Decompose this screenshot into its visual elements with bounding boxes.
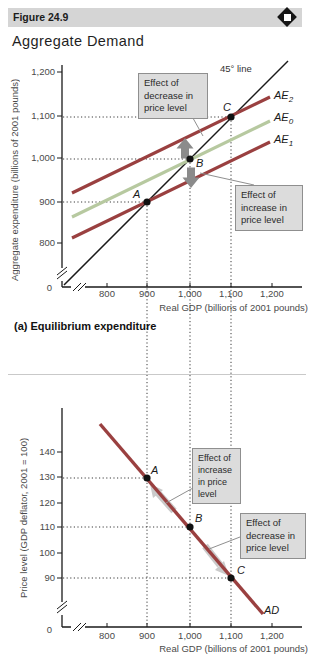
ya-tick-1000: 1,000 xyxy=(25,153,55,163)
xa-tick-1200: 1,200 xyxy=(255,289,289,299)
yb-tick-0: 0 xyxy=(40,625,52,635)
figure-title: Aggregate Demand xyxy=(12,33,144,49)
ae1-label-base: AE xyxy=(274,133,289,145)
leader-decrease-b xyxy=(209,537,240,549)
point-b-dot-a xyxy=(186,155,193,162)
callout-text-line: Effect of xyxy=(246,517,301,530)
callout-text-line: in price xyxy=(198,476,236,488)
xb-tick-800: 800 xyxy=(90,631,124,641)
point-c-dot-b xyxy=(227,574,234,581)
point-c-label-a: C xyxy=(223,101,231,113)
callout-text-line: Effect of xyxy=(198,452,236,464)
callout-text-line: price level xyxy=(241,214,298,227)
point-a-dot-b xyxy=(143,474,150,481)
yb-axis-title: Price level (GDP deflator, 2001 = 100) xyxy=(17,405,31,631)
ae2-label-base: AE xyxy=(274,89,289,101)
figure-number: Figure 24.9 xyxy=(8,8,302,27)
xb-tick-1000: 1,000 xyxy=(173,631,207,641)
panel-divider xyxy=(8,374,306,375)
ad-label: AD xyxy=(264,604,279,616)
ya-tick-800: 800 xyxy=(25,238,55,248)
ae0-label: AE0 xyxy=(274,111,293,126)
xa-tick-900: 900 xyxy=(130,289,164,299)
ae0-label-sub: 0 xyxy=(289,117,293,126)
ae2-label: AE2 xyxy=(274,89,293,104)
ya-tick-1200: 1,200 xyxy=(25,67,55,77)
callout-text-line: decrease in xyxy=(144,90,203,103)
leader-increase-a xyxy=(200,173,254,185)
point-a-dot-a xyxy=(143,198,150,205)
callout-text-line: level xyxy=(198,488,236,500)
diamond-icon-inner xyxy=(284,14,291,21)
callout-decrease-price-a: Effect of decrease in price level xyxy=(138,73,208,119)
callout-text-line: increase xyxy=(198,464,236,476)
ya-tick-900: 900 xyxy=(25,197,55,207)
panel-a-caption: (a) Equilibrium expenditure xyxy=(14,320,156,332)
figure-page: Figure 24.9 Aggregate Demand 1,200 1,100… xyxy=(0,0,316,666)
callout-decrease-price-b: Effect of decrease in price level xyxy=(240,513,306,559)
ya-axis-title: Aggregate expenditure (billions of 2001 … xyxy=(8,62,22,298)
callout-text-line: Effect of xyxy=(241,189,298,202)
ae0-label-base: AE xyxy=(274,111,289,123)
line45-label: 45° line xyxy=(220,63,252,74)
leader-increase-b xyxy=(166,488,193,503)
point-b-label-a: B xyxy=(196,157,203,169)
point-b-label-b: B xyxy=(195,512,202,524)
xa-tick-800: 800 xyxy=(90,289,124,299)
callout-text-line: increase in xyxy=(241,202,298,215)
figure-header-bar: Figure 24.9 xyxy=(8,8,302,27)
point-a-label-a: A xyxy=(133,188,140,200)
ya-tick-1100: 1,100 xyxy=(25,111,55,121)
xa-axis-title: Real GDP (billions of 2001 pounds) xyxy=(148,302,308,313)
xa-tick-1000: 1,000 xyxy=(173,289,207,299)
point-c-dot-a xyxy=(227,113,234,120)
callout-increase-price-b: Effect of increase in price level xyxy=(192,448,241,504)
xa-tick-1100: 1,100 xyxy=(214,289,248,299)
callout-text-line: price level xyxy=(246,542,301,555)
callout-increase-price-a: Effect of increase in price level xyxy=(235,185,303,231)
point-b-dot-b xyxy=(186,523,193,530)
xb-tick-1100: 1,100 xyxy=(214,631,248,641)
callout-text-line: Effect of xyxy=(144,77,203,90)
xb-tick-900: 900 xyxy=(130,631,164,641)
xb-axis-title: Real GDP (billions of 2001 pounds) xyxy=(148,643,308,654)
ya-tick-0: 0 xyxy=(40,283,52,293)
callout-text-line: price level xyxy=(144,102,203,115)
ae1-label: AE1 xyxy=(274,133,293,148)
ae2-label-sub: 2 xyxy=(289,95,293,104)
point-a-label-b: A xyxy=(151,464,158,476)
callout-text-line: decrease in xyxy=(246,530,301,543)
ae1-label-sub: 1 xyxy=(289,139,293,148)
xb-tick-1200: 1,200 xyxy=(255,631,289,641)
point-c-label-b: C xyxy=(237,564,245,576)
diamond-icon xyxy=(277,7,297,27)
